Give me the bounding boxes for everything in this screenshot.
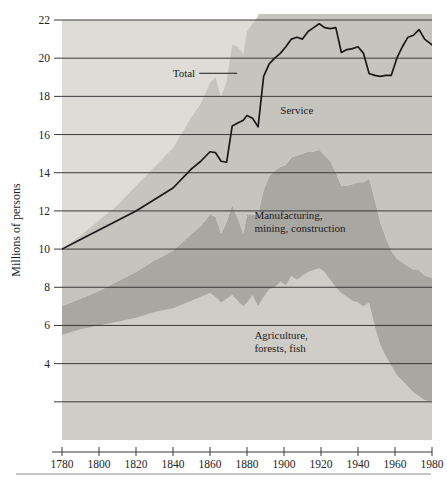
y-tick-label-22: 22 — [39, 14, 51, 26]
y-axis: 46810121416182022 — [39, 14, 63, 402]
x-tick-label-1820: 1820 — [125, 458, 148, 470]
x-tick-label-1980: 1980 — [421, 458, 444, 470]
x-tick-label-1800: 1800 — [88, 458, 111, 470]
x-tick-label-1920: 1920 — [310, 458, 333, 470]
annotation-manufacturing: Manufacturing, — [254, 209, 322, 221]
x-tick-label-1840: 1840 — [162, 458, 185, 470]
x-tick-label-1940: 1940 — [347, 458, 370, 470]
annotation-agriculture-line2: forests, fish — [254, 342, 306, 354]
y-tick-label-14: 14 — [39, 167, 51, 179]
area-chart: 4681012141618202217801800182018401860188… — [0, 0, 447, 483]
x-tick-label-1900: 1900 — [273, 458, 296, 470]
x-tick-label-1880: 1880 — [236, 458, 259, 470]
x-tick-label-1960: 1960 — [384, 458, 407, 470]
y-tick-label-20: 20 — [39, 52, 51, 64]
y-tick-label-10: 10 — [39, 243, 51, 255]
y-tick-label-8: 8 — [44, 281, 50, 293]
annotation-service: Service — [280, 104, 313, 116]
annotation-agriculture: Agriculture, — [254, 329, 308, 341]
y-tick-label-16: 16 — [39, 129, 51, 141]
x-tick-label-1860: 1860 — [199, 458, 222, 470]
y-tick-label-12: 12 — [39, 205, 51, 217]
y-tick-label-4: 4 — [44, 358, 50, 370]
y-axis-title: Millions of persons — [9, 183, 23, 277]
x-axis: 1780180018201840186018801900192019401960… — [51, 447, 444, 470]
y-tick-label-18: 18 — [39, 90, 51, 102]
x-tick-label-1780: 1780 — [51, 458, 74, 470]
y-tick-label-6: 6 — [44, 319, 50, 331]
chart-figure: 4681012141618202217801800182018401860188… — [0, 0, 447, 483]
annotation-manufacturing-line2: mining, construction — [254, 222, 346, 234]
annotation-total: Total — [173, 67, 195, 79]
